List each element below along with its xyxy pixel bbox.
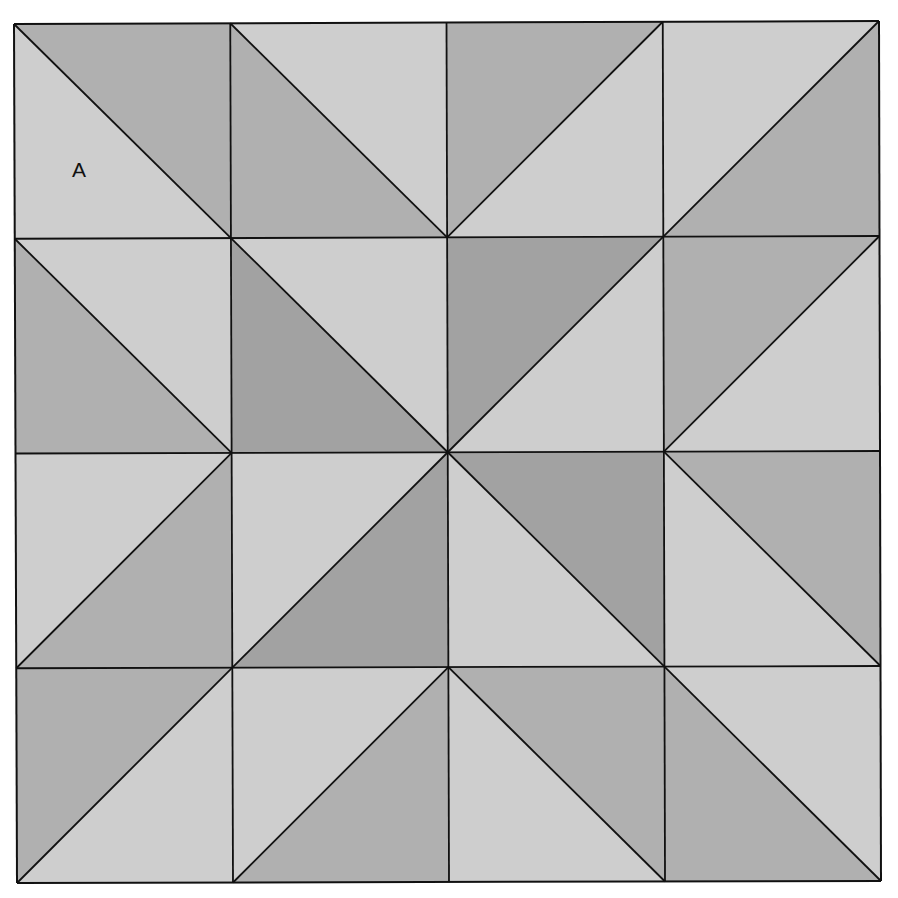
cell-label-a: A — [72, 159, 86, 180]
quilt-diagram — [0, 0, 898, 898]
